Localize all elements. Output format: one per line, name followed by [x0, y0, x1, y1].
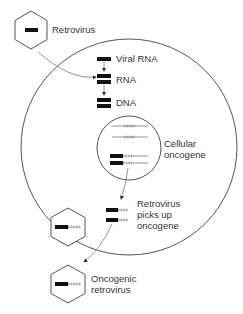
oncogenic-retrovirus: [51, 265, 85, 303]
label-picks-line2: picks up: [137, 209, 172, 220]
label-dna: DNA: [116, 97, 137, 108]
recombinant-genome: [106, 208, 128, 222]
label-retrovirus: Retrovirus: [52, 24, 96, 35]
label-oncogenic: Oncogenic: [91, 273, 137, 284]
label-picks-line1: Retrovirus: [137, 198, 181, 209]
rna-strand-1: [97, 74, 111, 78]
label-picks-line3: oncogene: [137, 220, 179, 231]
arrow-to-oncogenic-retrovirus: [84, 224, 112, 262]
label-viral-rna: Viral RNA: [116, 53, 158, 64]
retrovirus-particle: [15, 11, 47, 49]
dna-strand-1: [97, 98, 111, 102]
arrow-nucleus-to-recombinant: [121, 168, 128, 199]
integrated-provirus-1: [110, 154, 148, 158]
entry-arrow: [38, 52, 96, 77]
budding-retrovirus: [51, 208, 85, 246]
label-retrovirus-2: retrovirus: [91, 284, 131, 295]
label-oncogene: oncogene: [164, 149, 206, 160]
label-cellular: Cellular: [164, 138, 196, 149]
retrovirus-oncogene-diagram: Retrovirus Viral RNA RNA DNA Cellular on…: [0, 0, 243, 314]
dna-strand-2: [97, 104, 111, 108]
viral-rna-strand: [97, 57, 111, 61]
integrated-provirus-2: [110, 161, 148, 165]
viral-genome: [25, 28, 38, 32]
rna-strand-2: [97, 80, 111, 84]
label-rna: RNA: [116, 74, 137, 85]
